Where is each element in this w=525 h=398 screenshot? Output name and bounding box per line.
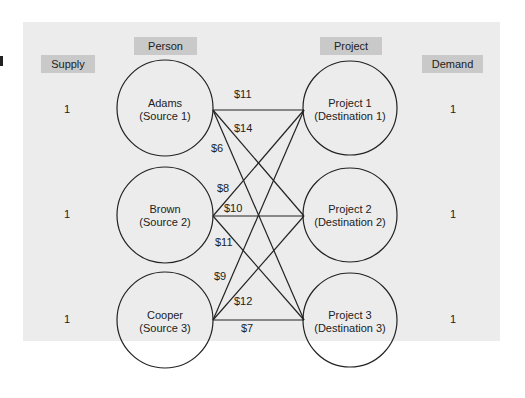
source-label: Cooper (Source 3)	[115, 309, 215, 335]
destination-label: Project 1 (Destination 1)	[300, 97, 400, 123]
header-project: Project	[320, 37, 382, 55]
cost-label: $6	[211, 142, 223, 154]
supply-value: 1	[57, 313, 77, 325]
source-sub: (Source 3)	[115, 322, 215, 335]
header-person: Person	[134, 37, 197, 55]
header-supply: Supply	[41, 55, 95, 73]
supply-value: 1	[57, 208, 77, 220]
source-label: Brown (Source 2)	[115, 203, 215, 229]
demand-value: 1	[443, 313, 463, 325]
destination-sub: (Destination 1)	[300, 110, 400, 123]
destination-name: Project 3	[300, 309, 400, 322]
destination-sub: (Destination 3)	[300, 322, 400, 335]
cost-label: $11	[234, 88, 252, 100]
destination-label: Project 3 (Destination 3)	[300, 309, 400, 335]
cost-label: $9	[214, 270, 226, 282]
source-name: Cooper	[115, 309, 215, 322]
source-name: Brown	[115, 203, 215, 216]
source-label: Adams (Source 1)	[115, 97, 215, 123]
destination-label: Project 2 (Destination 2)	[300, 203, 400, 229]
destination-name: Project 1	[300, 97, 400, 110]
cost-label: $7	[241, 322, 253, 334]
demand-value: 1	[443, 208, 463, 220]
header-demand: Demand	[422, 55, 483, 73]
source-name: Adams	[115, 97, 215, 110]
destination-sub: (Destination 2)	[300, 216, 400, 229]
source-sub: (Source 2)	[115, 216, 215, 229]
cost-label: $14	[234, 122, 252, 134]
demand-value: 1	[443, 103, 463, 115]
cost-label: $11	[215, 236, 233, 248]
cost-label: $12	[234, 295, 252, 307]
supply-value: 1	[57, 103, 77, 115]
cost-label: $8	[217, 182, 229, 194]
cost-label: $10	[224, 202, 242, 214]
source-sub: (Source 1)	[115, 110, 215, 123]
destination-name: Project 2	[300, 203, 400, 216]
